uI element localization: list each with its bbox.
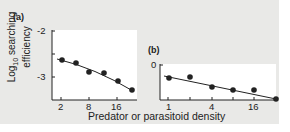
panel-a-plot-area <box>52 30 137 100</box>
panel-b-plot-area <box>160 64 276 100</box>
panel-a-x-tick: 2 <box>58 101 63 112</box>
panel-b-tag: (b) <box>148 45 160 55</box>
panel-b-y-tick-top: 0 <box>151 59 156 70</box>
panel-a-y-tick-bottom: -3 <box>37 71 45 82</box>
y-axis-label: Log10 searching efficiency <box>6 8 32 86</box>
panel-a-y-tick-top: -2 <box>37 25 45 36</box>
x-axis-label: Predator or parasitoid density <box>88 110 225 122</box>
panel-b-x-tick: 16 <box>248 101 259 112</box>
